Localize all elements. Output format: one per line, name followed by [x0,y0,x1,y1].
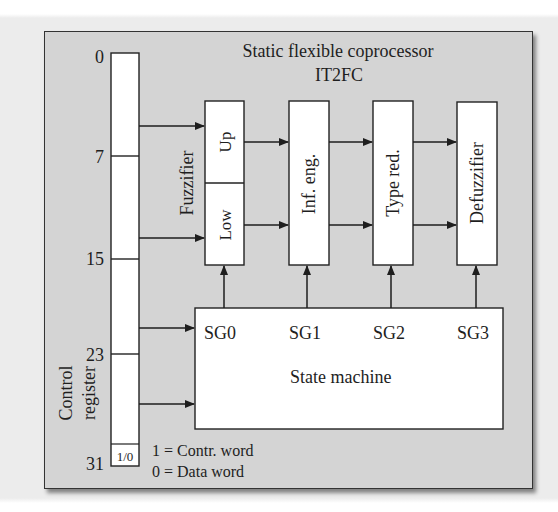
fuzzifier-low-label: Low [216,209,235,241]
legend-data-word: 0 = Data word [152,463,244,480]
signal-sg1: SG1 [289,323,321,343]
signal-sg3: SG3 [457,323,489,343]
register-label-line1: Control [56,365,76,420]
diagram-title: Static flexible coprocessor [243,41,434,61]
control-register [111,53,139,466]
signal-sg2: SG2 [373,323,405,343]
register-label-line2: register [79,366,99,420]
defuzzifier-label: Defuzzifier [467,142,487,224]
type-reducer-label: Type red. [383,149,403,217]
bit-label-31: 31 [86,454,104,474]
diagram-subtitle: IT2FC [315,65,363,85]
state-machine-label: State machine [290,367,391,387]
bit-label-15: 15 [86,249,104,269]
fuzzifier-up-label: Up [216,132,235,153]
bit-label-7: 7 [95,147,104,167]
bit-label-23: 23 [86,345,104,365]
inference-engine-label: Inf. eng. [299,154,319,214]
fuzzifier-label: Fuzzifier [177,151,197,216]
legend-control-word: 1 = Contr. word [152,442,253,459]
bit-label-0: 0 [95,47,104,67]
signal-sg0: SG0 [204,323,236,343]
diagram-canvas: Static flexible coprocessor IT2FC 1/0 0 … [0,0,558,512]
flag-bit-cell: 1/0 [117,449,134,464]
